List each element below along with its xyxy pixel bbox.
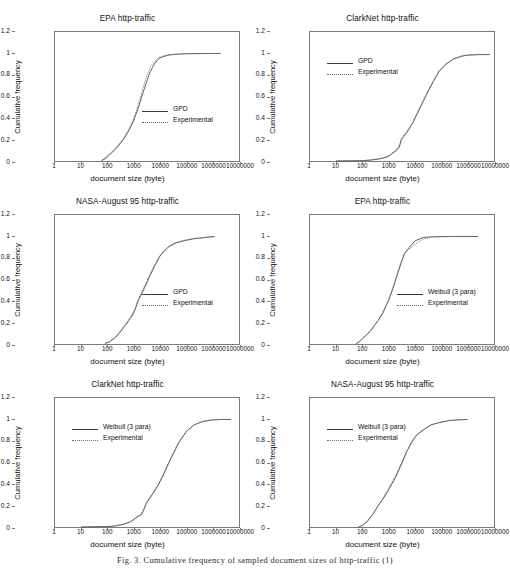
- y-tick-mark: [267, 506, 270, 507]
- legend-swatch-dotted: [397, 305, 423, 306]
- chart-title: ClarkNet http-traffic: [0, 380, 255, 389]
- series-canvas: [310, 398, 494, 527]
- y-tick-mark: [12, 441, 15, 442]
- series-canvas: [55, 32, 239, 161]
- y-tick-label: 1.2: [1, 211, 10, 218]
- y-tick-label: 1.2: [256, 394, 265, 401]
- y-tick-label: 0: [6, 342, 10, 349]
- series-canvas: [55, 398, 239, 527]
- y-tick-label: 0.8: [256, 71, 265, 78]
- legend-label: GPD: [173, 106, 188, 113]
- y-tick-label: 0.6: [1, 276, 10, 283]
- chart-nasa-weibull: NASA-August 95 http-trafficCumulative fr…: [255, 366, 510, 549]
- legend-swatch-solid: [142, 111, 168, 112]
- legend-label: Weibull (3 para): [103, 424, 151, 431]
- x-tick-mark: [389, 345, 390, 348]
- plot-area: [309, 214, 495, 345]
- legend-swatch-solid: [72, 429, 98, 430]
- y-tick-mark: [267, 323, 270, 324]
- plot-area: [54, 214, 240, 345]
- series-canvas: [310, 215, 494, 344]
- y-tick-mark: [12, 162, 15, 163]
- y-tick-mark: [267, 162, 270, 163]
- series-line-gpd: [102, 53, 221, 160]
- y-tick-label: 0.8: [1, 437, 10, 444]
- x-tick-mark: [495, 528, 496, 531]
- x-tick-mark: [362, 528, 363, 531]
- y-tick-mark: [267, 97, 270, 98]
- x-tick-mark: [240, 528, 241, 531]
- y-tick-label: 0: [6, 159, 10, 166]
- y-tick-label: 0.6: [1, 459, 10, 466]
- legend-swatch-solid: [397, 294, 423, 295]
- series-line-gpd: [105, 236, 215, 343]
- x-tick-mark: [213, 528, 214, 531]
- y-tick-mark: [12, 419, 15, 420]
- y-tick-label: 0.4: [256, 298, 265, 305]
- x-tick-mark: [240, 162, 241, 165]
- x-tick-mark: [54, 162, 55, 165]
- x-tick-mark: [415, 345, 416, 348]
- x-tick-mark: [54, 345, 55, 348]
- y-tick-mark: [12, 280, 15, 281]
- y-tick-label: 0.8: [1, 71, 10, 78]
- legend-label: Weibull (3 para): [358, 424, 406, 431]
- y-tick-mark: [267, 484, 270, 485]
- y-tick-label: 0.6: [1, 93, 10, 100]
- y-tick-mark: [12, 323, 15, 324]
- y-tick-label: 1: [6, 50, 10, 57]
- x-tick-mark: [107, 528, 108, 531]
- y-tick-mark: [267, 345, 270, 346]
- chart-title: ClarkNet http-traffic: [255, 14, 510, 23]
- x-tick-mark: [415, 528, 416, 531]
- x-axis-label: document size (byte): [0, 174, 255, 183]
- x-tick-mark: [468, 162, 469, 165]
- y-tick-label: 1: [6, 233, 10, 240]
- y-tick-mark: [267, 140, 270, 141]
- x-tick-mark: [81, 345, 82, 348]
- x-tick-mark: [81, 162, 82, 165]
- y-tick-mark: [12, 118, 15, 119]
- x-tick-mark: [442, 345, 443, 348]
- y-tick-label: 0.2: [256, 320, 265, 327]
- y-tick-label: 0: [261, 525, 265, 532]
- y-tick-label: 0: [261, 342, 265, 349]
- legend-label: Experimental: [173, 117, 213, 124]
- x-tick-mark: [362, 345, 363, 348]
- y-tick-mark: [12, 463, 15, 464]
- y-tick-mark: [267, 53, 270, 54]
- chart-title: NASA-August 95 http-traffic: [0, 197, 255, 206]
- y-tick-mark: [12, 53, 15, 54]
- y-tick-label: 1.2: [256, 28, 265, 35]
- y-tick-label: 0.6: [256, 459, 265, 466]
- legend-label: GPD: [173, 289, 188, 296]
- x-tick-mark: [442, 528, 443, 531]
- y-tick-label: 0.2: [1, 137, 10, 144]
- y-tick-mark: [267, 301, 270, 302]
- x-tick-mark: [187, 345, 188, 348]
- y-tick-mark: [12, 31, 15, 32]
- y-tick-mark: [267, 75, 270, 76]
- legend-swatch-dotted: [142, 305, 168, 306]
- legend-swatch-solid: [327, 63, 353, 64]
- y-tick-mark: [12, 301, 15, 302]
- y-tick-label: 0.8: [256, 437, 265, 444]
- chart-clarknet-weibull: ClarkNet http-trafficCumulative frequenc…: [0, 366, 255, 549]
- chart-title: EPA http-traffic: [0, 14, 255, 23]
- y-tick-label: 0.4: [256, 115, 265, 122]
- x-tick-mark: [187, 528, 188, 531]
- x-tick-mark: [468, 528, 469, 531]
- y-tick-mark: [267, 31, 270, 32]
- y-tick-mark: [267, 258, 270, 259]
- x-tick-mark: [160, 345, 161, 348]
- legend-swatch-solid: [327, 429, 353, 430]
- y-tick-mark: [267, 463, 270, 464]
- x-tick-mark: [495, 162, 496, 165]
- chart-nasa-gpd: NASA-August 95 http-trafficCumulative fr…: [0, 183, 255, 366]
- y-tick-label: 1: [261, 233, 265, 240]
- x-tick-mark: [495, 345, 496, 348]
- x-tick-mark: [309, 345, 310, 348]
- x-tick-mark: [336, 162, 337, 165]
- y-tick-label: 1: [261, 50, 265, 57]
- x-tick-mark: [107, 345, 108, 348]
